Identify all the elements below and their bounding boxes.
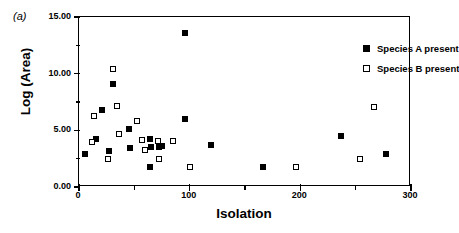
x-tick-minor [134, 185, 136, 190]
legend: Species A present Species B present [363, 43, 459, 83]
filled-square-icon [363, 45, 370, 52]
x-tick-label: 100 [169, 190, 209, 200]
legend-item-species-b: Species B present [363, 63, 459, 74]
y-tick-label: 5.00 [31, 124, 71, 134]
data-point-series-1 [155, 138, 161, 144]
data-point-series-1 [293, 164, 299, 170]
data-point-series-0 [126, 126, 132, 132]
y-tick-label: 10.00 [31, 68, 71, 78]
x-tick-minor [244, 185, 246, 190]
data-point-series-1 [139, 137, 145, 143]
data-point-series-1 [170, 138, 176, 144]
data-point-series-0 [110, 81, 116, 87]
data-point-series-1 [371, 104, 377, 110]
data-point-series-0 [260, 164, 266, 170]
y-tick-major [74, 73, 80, 75]
data-point-series-1 [156, 156, 162, 162]
data-point-series-0 [383, 151, 389, 157]
data-point-series-0 [182, 30, 188, 36]
data-point-series-0 [106, 148, 112, 154]
data-point-series-0 [208, 142, 214, 148]
data-point-series-0 [147, 136, 153, 142]
y-tick-minor [76, 101, 80, 103]
data-point-series-0 [147, 164, 153, 170]
data-point-series-0 [182, 116, 188, 122]
y-tick-major [74, 16, 80, 18]
data-point-series-1 [116, 131, 122, 137]
y-axis-title: Log (Area) [18, 27, 33, 137]
data-point-series-0 [127, 145, 133, 151]
y-tick-label: 15.00 [31, 11, 71, 21]
data-point-series-1 [357, 156, 363, 162]
x-tick-label: 0 [58, 190, 98, 200]
legend-item-species-a: Species A present [363, 43, 459, 54]
y-tick-major [74, 130, 80, 132]
data-point-series-1 [110, 66, 116, 72]
data-point-series-1 [91, 113, 97, 119]
x-tick-label: 300 [390, 190, 430, 200]
data-point-series-0 [148, 144, 154, 150]
open-square-icon [363, 65, 370, 72]
data-point-series-1 [105, 156, 111, 162]
y-tick-minor [76, 158, 80, 160]
data-point-series-0 [82, 151, 88, 157]
legend-label-species-b: Species B present [377, 63, 459, 74]
panel-label: (a) [13, 10, 26, 22]
data-point-series-1 [114, 103, 120, 109]
data-point-series-0 [338, 133, 344, 139]
x-tick-minor [355, 185, 357, 190]
legend-label-species-a: Species A present [377, 43, 459, 54]
data-point-series-1 [187, 164, 193, 170]
data-point-series-0 [99, 107, 105, 113]
x-tick-label: 200 [279, 190, 319, 200]
data-point-series-1 [142, 147, 148, 153]
plot-area: Species A present Species B present [78, 16, 410, 186]
y-tick-minor [76, 45, 80, 47]
data-point-series-1 [89, 139, 95, 145]
data-point-series-1 [134, 118, 140, 124]
x-axis-title: Isolation [78, 206, 410, 221]
